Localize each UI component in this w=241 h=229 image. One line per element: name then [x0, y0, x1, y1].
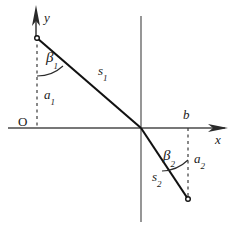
beta2-label: β2 [163, 148, 175, 166]
s1-label: s1 [98, 64, 108, 81]
beta2-subscript: 2 [170, 159, 175, 169]
a1-label: a1 [44, 88, 55, 105]
origin-label: O [18, 115, 27, 128]
beta1-label: β1 [46, 50, 58, 68]
a1-symbol: a [44, 87, 51, 102]
s2-subscript: 2 [157, 179, 162, 189]
y-axis-label: y [44, 11, 50, 24]
a2-symbol: a [194, 151, 201, 166]
a2-subscript: 2 [201, 161, 206, 171]
point-marker-upper [35, 36, 40, 41]
geometry-figure: y x O β1 a1 s1 b β2 a2 s2 [0, 0, 241, 229]
b-label: b [183, 108, 190, 121]
beta1-subscript: 1 [53, 61, 58, 71]
point-marker-lower [186, 197, 191, 202]
diagram-canvas [0, 0, 241, 229]
x-axis-label: x [215, 133, 221, 146]
a1-subscript: 1 [51, 97, 56, 107]
s2-label: s2 [152, 170, 162, 187]
s1-subscript: 1 [103, 73, 108, 83]
a2-label: a2 [194, 152, 205, 169]
